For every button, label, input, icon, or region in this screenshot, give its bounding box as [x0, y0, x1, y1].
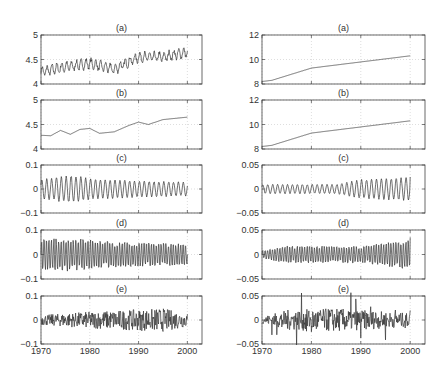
panel-title: (a) [338, 23, 349, 33]
panel-right-d: (d)−0.0500.05 [236, 218, 425, 284]
x-tick-label: 1990 [129, 346, 149, 356]
panel-title: (c) [338, 153, 349, 163]
panel-title: (d) [116, 218, 127, 228]
panel-left-e: (e)−0.100.11970198019902000 [20, 284, 202, 356]
x-tick-label: 1980 [301, 346, 321, 356]
panel-title: (c) [116, 153, 127, 163]
x-tick-label: 1970 [252, 346, 272, 356]
panel-title: (a) [116, 23, 127, 33]
y-tick-label: 0.1 [25, 291, 38, 301]
y-tick-label: 4 [33, 144, 38, 154]
x-tick-label: 1990 [351, 346, 371, 356]
panel-title: (e) [338, 284, 349, 294]
y-tick-label: 0 [254, 250, 259, 260]
y-tick-label: −0.1 [20, 274, 38, 284]
panel-left-b: (b)44.55 [25, 88, 202, 154]
y-tick-label: 4 [33, 79, 38, 89]
series-line [41, 48, 187, 76]
x-tick-label: 2000 [177, 346, 197, 356]
figure: (a)44.55(b)44.55(c)−0.100.1(d)−0.100.1(e… [0, 0, 446, 375]
y-tick-label: 10 [249, 120, 259, 130]
series-line [262, 56, 410, 82]
y-tick-label: 4.5 [25, 55, 38, 65]
x-tick-label: 1980 [80, 346, 100, 356]
y-tick-label: 0 [254, 184, 259, 194]
panel-title: (b) [116, 88, 127, 98]
panel-title: (d) [338, 218, 349, 228]
y-tick-label: 0 [33, 250, 38, 260]
x-tick-label: 2000 [400, 346, 420, 356]
series-line [41, 239, 187, 271]
y-tick-label: 0.05 [241, 291, 259, 301]
series-line [262, 121, 410, 147]
panel-right-c: (c)−0.0500.05 [236, 153, 425, 218]
y-tick-label: 0.05 [241, 160, 259, 170]
x-tick-label: 1970 [31, 346, 51, 356]
y-tick-label: 5 [33, 95, 38, 105]
y-tick-label: −0.05 [236, 208, 259, 218]
panel-right-e: (e)−0.0500.051970198019902000 [236, 284, 425, 356]
panel-right-a: (a)81012 [249, 23, 425, 89]
y-tick-label: 8 [254, 144, 259, 154]
panel-left-d: (d)−0.100.1 [20, 218, 202, 284]
panel-left-c: (c)−0.100.1 [20, 153, 202, 218]
y-tick-label: 4.5 [25, 120, 38, 130]
series-line [262, 237, 410, 268]
y-tick-label: 8 [254, 79, 259, 89]
panel-left-a: (a)44.55 [25, 23, 202, 89]
y-tick-label: 5 [33, 30, 38, 40]
y-tick-label: −0.05 [236, 274, 259, 284]
y-tick-label: 0.1 [25, 160, 38, 170]
panel-title: (e) [116, 284, 127, 294]
panel-right-b: (b)81012 [249, 88, 425, 154]
y-tick-label: 12 [249, 30, 259, 40]
y-tick-label: −0.1 [20, 208, 38, 218]
series-line [262, 177, 410, 200]
y-tick-label: 0 [33, 315, 38, 325]
y-tick-label: 0 [33, 184, 38, 194]
series-line [262, 293, 410, 345]
y-tick-label: 0.05 [241, 225, 259, 235]
y-tick-label: 10 [249, 55, 259, 65]
y-tick-label: 0 [254, 315, 259, 325]
y-tick-label: 12 [249, 95, 259, 105]
series-line [41, 309, 187, 332]
series-line [41, 117, 187, 136]
y-tick-label: 0.1 [25, 225, 38, 235]
panel-title: (b) [338, 88, 349, 98]
